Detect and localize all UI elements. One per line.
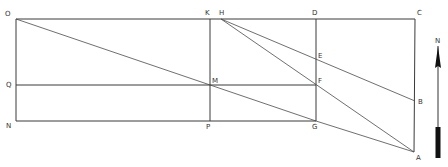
label-P: P <box>206 123 210 131</box>
line-C-A <box>414 19 415 152</box>
line-O-G <box>16 19 316 121</box>
label-G: G <box>312 123 317 131</box>
label-O: O <box>5 10 11 18</box>
label-Q: Q <box>6 81 12 89</box>
survey-diagram: O K H D C E Q M F B N P G A N <box>0 0 448 167</box>
label-K: K <box>205 9 210 17</box>
label-F: F <box>318 77 322 85</box>
label-M: M <box>212 77 218 85</box>
label-B: B <box>418 98 423 106</box>
label-E: E <box>318 52 322 60</box>
line-G-A <box>316 121 414 152</box>
north-arrow-icon: N <box>435 37 441 158</box>
label-H: H <box>219 9 224 17</box>
label-C: C <box>417 9 422 17</box>
label-D: D <box>312 9 317 17</box>
line-H-B <box>221 19 415 101</box>
label-A: A <box>416 154 421 162</box>
label-N: N <box>6 122 11 130</box>
north-label: N <box>435 37 440 45</box>
